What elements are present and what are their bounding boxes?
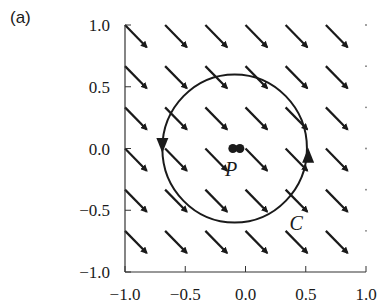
field-arrow bbox=[125, 25, 147, 47]
y-tick-label: −0.5 bbox=[79, 201, 110, 220]
field-point bbox=[365, 65, 367, 67]
annotation-p: P bbox=[224, 158, 237, 180]
field-arrow bbox=[286, 231, 308, 253]
vector-field-chart: PC −1.0−0.50.00.51.0−1.0−0.50.00.51.0 bbox=[0, 0, 381, 308]
field-arrow bbox=[165, 231, 187, 253]
field-arrow bbox=[125, 231, 147, 253]
field-arrow bbox=[205, 149, 227, 171]
field-point bbox=[365, 106, 367, 108]
point-p-dot bbox=[235, 144, 244, 153]
field-arrow bbox=[246, 107, 268, 129]
y-tick-label: 1.0 bbox=[89, 16, 110, 35]
x-tick-label: −1.0 bbox=[110, 285, 141, 304]
field-arrow bbox=[326, 107, 348, 129]
field-arrow bbox=[326, 25, 348, 47]
field-arrow bbox=[125, 149, 147, 171]
field-point bbox=[365, 230, 367, 232]
field-point bbox=[365, 148, 367, 150]
field-arrow bbox=[125, 190, 147, 212]
field-arrow bbox=[286, 190, 308, 212]
field-point bbox=[365, 24, 367, 26]
field-arrow bbox=[326, 231, 348, 253]
field-arrow bbox=[205, 25, 227, 47]
field-arrow bbox=[246, 149, 268, 171]
field-arrow bbox=[205, 231, 227, 253]
field-arrow bbox=[326, 190, 348, 212]
field-arrow bbox=[205, 107, 227, 129]
field-arrow bbox=[165, 25, 187, 47]
field-point bbox=[365, 189, 367, 191]
y-tick-label: −1.0 bbox=[79, 263, 110, 282]
field-arrow bbox=[326, 149, 348, 171]
field-arrow bbox=[246, 190, 268, 212]
field-arrow bbox=[286, 25, 308, 47]
field-arrow bbox=[326, 66, 348, 88]
y-tick-label: 0.0 bbox=[89, 140, 110, 159]
x-tick-label: 0.5 bbox=[295, 285, 316, 304]
field-arrow bbox=[246, 231, 268, 253]
field-arrow bbox=[125, 107, 147, 129]
y-tick-label: 0.5 bbox=[89, 78, 110, 97]
x-tick-label: −0.5 bbox=[170, 285, 201, 304]
field-arrow bbox=[246, 25, 268, 47]
x-tick-label: 1.0 bbox=[355, 285, 376, 304]
x-tick-label: 0.0 bbox=[235, 285, 256, 304]
field-arrow bbox=[125, 66, 147, 88]
annotation-c: C bbox=[289, 212, 303, 234]
field-arrow bbox=[286, 66, 308, 88]
field-arrow bbox=[165, 66, 187, 88]
field-arrow bbox=[165, 149, 187, 171]
direction-arrow-icon bbox=[302, 148, 314, 163]
field-arrow bbox=[205, 190, 227, 212]
